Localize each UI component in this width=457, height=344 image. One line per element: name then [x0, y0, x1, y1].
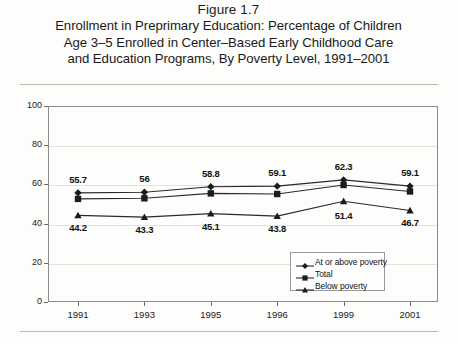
x-tick-mark [211, 302, 212, 306]
data-label: 43.8 [255, 223, 299, 234]
figure-title-line-3: and Education Programs, By Poverty Level… [0, 51, 457, 68]
x-tick-label: 1996 [252, 309, 302, 320]
y-tick-label: 100 [18, 100, 42, 110]
data-label: 46.7 [388, 217, 432, 228]
data-label: 43.3 [122, 224, 166, 235]
data-label: 62.3 [322, 161, 366, 172]
x-tick-label: 2001 [385, 309, 435, 320]
x-tick-mark [410, 302, 411, 306]
title-divider-rule [20, 84, 438, 85]
data-label: 51.4 [322, 210, 366, 221]
diamond-marker-icon [295, 257, 315, 267]
x-tick-label: 1991 [53, 309, 103, 320]
legend-label: Total [315, 269, 332, 279]
chart-legend[interactable]: At or above povertyTotalBelow poverty [290, 252, 385, 291]
figure-container: Figure 1.7 Enrollment in Preprimary Educ… [0, 0, 457, 344]
legend-item[interactable]: Total [295, 268, 384, 279]
legend-item[interactable]: Below poverty [295, 280, 384, 291]
y-tick-label: 20 [18, 257, 42, 267]
legend-label: Below poverty [315, 281, 367, 291]
data-label: 45.1 [189, 221, 233, 232]
data-label: 44.2 [56, 222, 100, 233]
data-label: 58.8 [189, 168, 233, 179]
data-label: 59.1 [255, 167, 299, 178]
y-tick-mark [44, 302, 48, 303]
y-tick-label: 40 [18, 218, 42, 228]
x-tick-label: 1995 [186, 309, 236, 320]
gridline [49, 225, 437, 226]
data-label: 56 [122, 173, 166, 184]
square-marker-icon [295, 269, 315, 279]
legend-label: At or above poverty [315, 257, 387, 267]
y-tick-label: 80 [18, 139, 42, 149]
triangle-marker-icon [295, 281, 315, 291]
x-tick-label: 1993 [119, 309, 169, 320]
x-tick-mark [78, 302, 79, 306]
figure-title-block: Figure 1.7 Enrollment in Preprimary Educ… [0, 2, 457, 68]
bottom-divider-rule [20, 331, 438, 332]
x-tick-mark [344, 302, 345, 306]
gridline [49, 185, 437, 186]
x-tick-mark [277, 302, 278, 306]
figure-title-line-2: Age 3–5 Enrolled in Center–Based Early C… [0, 35, 457, 52]
figure-number: Figure 1.7 [0, 2, 457, 18]
legend-item[interactable]: At or above poverty [295, 256, 384, 267]
gridline [49, 146, 437, 147]
data-label: 59.1 [388, 167, 432, 178]
x-tick-mark [144, 302, 145, 306]
x-tick-label: 1999 [319, 309, 369, 320]
y-tick-label: 60 [18, 178, 42, 188]
y-tick-label: 0 [18, 296, 42, 306]
figure-title-line-1: Enrollment in Preprimary Education: Perc… [0, 18, 457, 35]
data-label: 55.7 [56, 174, 100, 185]
